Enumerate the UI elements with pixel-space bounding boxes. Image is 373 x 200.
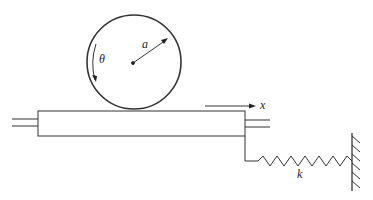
label-x: x — [259, 98, 266, 112]
wall-hatching — [352, 136, 360, 188]
radius-arrow — [133, 40, 166, 63]
theta-arrow — [93, 44, 96, 80]
theta-arrowhead-icon — [92, 75, 97, 82]
diagram-canvas: a θ x k — [0, 0, 373, 200]
x-arrowhead-icon — [249, 104, 256, 109]
label-theta: θ — [99, 52, 105, 66]
label-radius: a — [142, 37, 148, 51]
platform — [38, 111, 245, 136]
spring — [258, 156, 352, 166]
label-k: k — [297, 167, 303, 181]
spring-connector — [245, 136, 258, 161]
